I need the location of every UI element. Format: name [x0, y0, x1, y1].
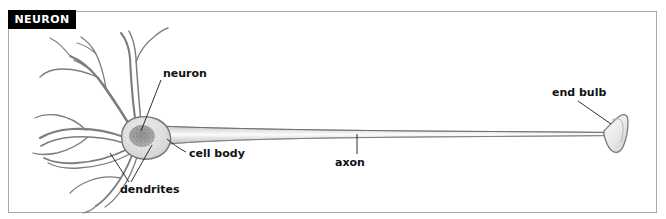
axon-body: [160, 126, 606, 145]
label-neuron: neuron: [163, 67, 207, 80]
neuron-figure: NEURON neuron cell body dendrites axon e…: [0, 0, 666, 219]
figure-title: NEURON: [14, 13, 69, 26]
cell-body-soma: [122, 117, 171, 160]
dendrite-branches-upper: [40, 28, 168, 130]
label-end-bulb: end bulb: [552, 86, 606, 99]
end-bulb: [604, 115, 628, 153]
leader-end-bulb: [578, 101, 611, 124]
label-axon: axon: [335, 156, 365, 169]
figure-title-box: NEURON: [8, 10, 76, 29]
label-dendrites: dendrites: [120, 183, 180, 196]
neuron-illustration: [0, 0, 666, 219]
label-cell-body: cell body: [189, 147, 245, 160]
